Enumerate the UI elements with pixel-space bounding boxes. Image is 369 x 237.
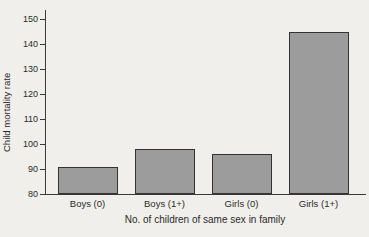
bar-boys-0 <box>58 167 118 195</box>
y-tick-mark <box>40 69 45 70</box>
y-tick-mark <box>40 119 45 120</box>
y-tick-label: 120 <box>3 89 38 99</box>
bar-chart-figure: Child mortality rate 8090100110120130140… <box>0 0 369 237</box>
y-tick-mark <box>40 19 45 20</box>
y-tick-label: 90 <box>3 164 38 174</box>
bar-girls-1 <box>289 32 349 195</box>
y-tick-mark <box>40 144 45 145</box>
y-tick-mark <box>40 169 45 170</box>
y-tick-mark <box>40 94 45 95</box>
plot-area: 8090100110120130140150Boys (0)Boys (1+)G… <box>45 10 366 195</box>
y-tick-label: 130 <box>3 64 38 74</box>
y-tick-label: 150 <box>3 14 38 24</box>
x-category-label: Girls (0) <box>203 198 280 209</box>
y-tick-label: 110 <box>3 114 38 124</box>
y-tick-label: 80 <box>3 189 38 199</box>
y-tick-mark <box>40 44 45 45</box>
x-axis-title: No. of children of same sex in family <box>45 214 365 225</box>
x-category-label: Boys (0) <box>49 198 126 209</box>
y-tick-mark <box>40 194 45 195</box>
x-category-label: Boys (1+) <box>126 198 203 209</box>
bar-girls-0 <box>212 154 272 194</box>
bar-boys-1 <box>135 149 195 194</box>
y-tick-label: 140 <box>3 39 38 49</box>
y-tick-label: 100 <box>3 139 38 149</box>
x-category-label: Girls (1+) <box>280 198 357 209</box>
